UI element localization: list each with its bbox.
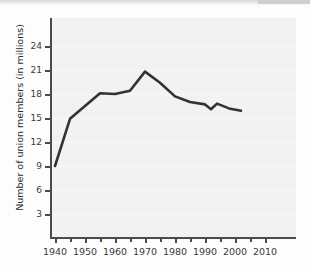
chart-screenshot: 24 21 18 15 12 9 6 3 1940 1950 1960 1970…	[0, 0, 310, 270]
line-chart-figure: 24 21 18 15 12 9 6 3 1940 1950 1960 1970…	[0, 0, 310, 270]
series-line-union-members	[0, 0, 310, 270]
